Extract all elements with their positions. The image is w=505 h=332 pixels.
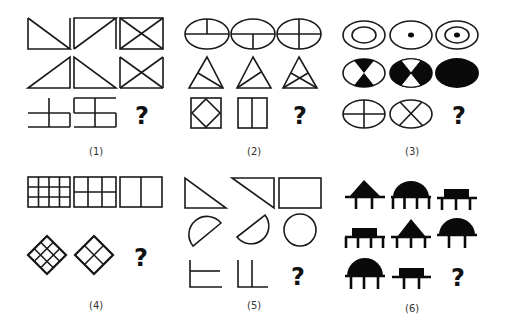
figure-2-6 [283,57,317,88]
panel-label-5: (5) [247,300,261,311]
panel-2: ? (2) [185,19,321,157]
figure-5-1 [185,178,226,208]
figure-3-4 [343,59,385,87]
figure-3-3 [436,21,478,49]
panel-label-6: (6) [405,303,419,314]
figure-2-5 [237,57,271,88]
figure-3-6 [435,58,479,88]
figure-1-7 [28,98,70,127]
figure-1-3 [120,18,163,49]
panel-label-2: (2) [247,146,261,157]
figure-6-4 [345,228,385,248]
figure-3-1 [343,21,385,49]
figure-4-4 [28,236,66,274]
question-mark-5: ? [291,263,305,291]
figure-3-5 [390,59,432,87]
figure-3-8 [390,100,432,128]
figure-1-2 [74,18,116,49]
panel-label-1: (1) [89,146,103,157]
figure-2-3 [277,19,321,49]
figure-4-3 [120,177,162,207]
panel-label-4: (4) [89,300,103,311]
figure-6-3 [437,189,477,210]
figure-5-7 [190,260,222,287]
figure-1-6 [120,57,163,88]
figure-2-7 [191,98,221,128]
question-mark-3: ? [452,102,466,130]
figure-5-3 [279,178,321,208]
question-mark-4: ? [134,244,148,272]
figure-5-5 [237,215,269,244]
figure-3-2 [390,21,432,49]
figure-6-1 [345,180,385,209]
figure-6-7 [345,258,385,289]
puzzle-canvas: ? (1) [0,0,505,332]
figure-2-4 [189,57,223,88]
panel-5: ? (5) [185,178,321,311]
figure-6-6 [437,218,477,248]
figure-3-7 [343,100,385,128]
figure-6-5 [391,219,431,248]
panel-6: ? (6) [345,180,477,314]
figure-2-2 [231,19,275,49]
figure-6-8 [392,268,431,289]
figure-4-5 [75,236,113,274]
panel-label-3: (3) [405,146,419,157]
figure-4-2 [74,177,116,207]
figure-5-6 [284,214,316,246]
figure-2-8 [238,98,267,128]
panel-1: ? (1) [28,18,163,157]
figure-1-8 [74,98,116,127]
figure-6-2 [391,181,431,209]
figure-1-5 [74,57,116,88]
figure-5-2 [232,178,274,208]
question-mark-2: ? [293,102,307,130]
question-mark-6: ? [451,264,465,292]
panel-4: ? (4) [28,177,162,311]
figure-2-1 [185,19,229,49]
figure-1-4 [28,57,70,88]
figure-4-1 [28,177,70,207]
figure-5-8 [238,260,268,287]
question-mark-1: ? [135,102,149,130]
figure-1-1 [28,18,70,49]
figure-5-4 [189,216,221,246]
panel-3: ? (3) [343,21,479,157]
